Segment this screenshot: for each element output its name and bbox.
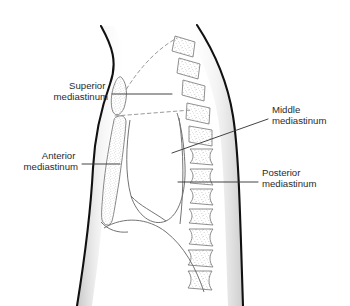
vertebra-T7 — [190, 169, 213, 185]
vertebra-T8 — [190, 189, 213, 205]
vertebra-T9 — [189, 209, 213, 225]
mediastinum-diagram: Superior mediastinum Anterior mediastinu… — [0, 0, 350, 306]
vertebra-T11 — [188, 250, 213, 267]
vertebra-T10 — [189, 229, 213, 246]
vertebra-T6 — [190, 149, 213, 165]
